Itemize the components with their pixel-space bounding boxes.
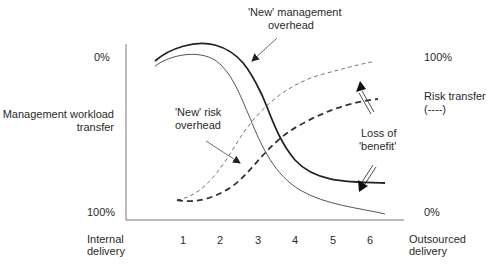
risk-overhead-label: 'New' risk <box>175 106 221 119</box>
x-left-label-2: delivery <box>87 245 125 258</box>
chart-canvas <box>0 0 487 264</box>
loss-benefit-label: Loss of <box>361 127 396 140</box>
loss-benefit-arrow-up <box>356 81 374 114</box>
x-right-label-2: delivery <box>409 245 447 258</box>
mgmt-overhead-arrow <box>252 38 277 61</box>
loss-benefit-label-2: 'benefit' <box>359 140 396 153</box>
risk-overhead-label-2: overhead <box>175 119 221 132</box>
x-tick-2: 2 <box>217 234 223 247</box>
mgmt-overhead-label-2: overhead <box>268 19 314 32</box>
left-axis-bottom: 100% <box>87 206 115 219</box>
left-axis-top: 0% <box>94 51 110 64</box>
right-axis-label: Risk transfer <box>424 90 486 103</box>
left-axis-label-2: transfer <box>77 121 114 134</box>
right-axis-bottom: 0% <box>424 206 440 219</box>
mgmt-ideal-curve <box>155 54 385 214</box>
loss-benefit-arrow-down <box>358 165 376 192</box>
risk-overhead-arrow <box>206 141 240 163</box>
right-axis-legend: (----) <box>424 103 446 116</box>
x-tick-3: 3 <box>255 234 261 247</box>
x-tick-5: 5 <box>330 234 336 247</box>
right-axis-top: 100% <box>424 51 452 64</box>
mgmt-overhead-label: 'New' management <box>248 6 341 19</box>
x-tick-6: 6 <box>367 234 373 247</box>
x-tick-1: 1 <box>180 234 186 247</box>
left-axis-label: Management workload <box>3 108 114 121</box>
x-tick-4: 4 <box>292 234 298 247</box>
